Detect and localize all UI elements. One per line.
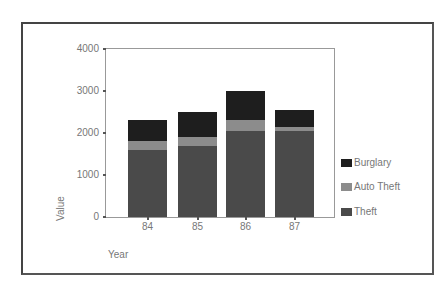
y-tick-label: 1000 — [59, 169, 99, 180]
y-axis-title: Value — [55, 196, 66, 221]
y-tick-mark — [103, 174, 106, 176]
bar-segment-theft — [226, 131, 265, 217]
y-tick-label: 2000 — [59, 127, 99, 138]
bar-segment-burglary — [275, 110, 314, 127]
bar-segment-burglary — [226, 91, 265, 120]
y-tick-label: 3000 — [59, 85, 99, 96]
y-tick-label: 4000 — [59, 43, 99, 54]
y-tick-mark — [103, 90, 106, 92]
bar-segment-auto-theft — [128, 141, 167, 149]
legend-swatch — [341, 159, 352, 167]
bar-segment-theft — [178, 146, 217, 217]
bar-segment-burglary — [128, 120, 167, 141]
legend-swatch — [341, 183, 352, 191]
legend-item-theft: Theft — [341, 206, 377, 217]
legend-item-burglary: Burglary — [341, 157, 391, 168]
bar-segment-theft — [128, 150, 167, 217]
y-tick-mark — [103, 48, 106, 50]
x-tick-mark — [294, 217, 296, 220]
legend-label: Auto Theft — [354, 181, 400, 192]
x-tick-label: 86 — [231, 221, 261, 232]
y-tick-mark — [103, 132, 106, 134]
legend-item-auto-theft: Auto Theft — [341, 181, 400, 192]
legend-label: Burglary — [354, 157, 391, 168]
x-axis-title: Year — [108, 249, 128, 260]
bar-segment-auto-theft — [275, 127, 314, 131]
y-tick-mark — [103, 216, 106, 218]
x-tick-label: 84 — [133, 221, 163, 232]
x-tick-label: 87 — [280, 221, 310, 232]
x-tick-label: 85 — [183, 221, 213, 232]
bar-segment-auto-theft — [226, 120, 265, 131]
bar-segment-auto-theft — [178, 137, 217, 145]
bar-segment-theft — [275, 131, 314, 217]
x-tick-mark — [147, 217, 149, 220]
legend-swatch — [341, 208, 352, 216]
x-tick-mark — [245, 217, 247, 220]
legend-label: Theft — [354, 206, 377, 217]
x-tick-mark — [197, 217, 199, 220]
bar-segment-burglary — [178, 112, 217, 137]
